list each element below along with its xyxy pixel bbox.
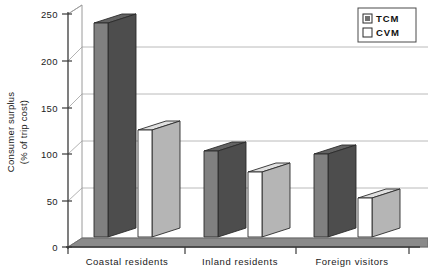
y-axis-title-line1: Consumer surplus [5, 92, 16, 172]
y-axis-title: Consumer surplus (% of trip cost) [5, 92, 29, 172]
connector-250 [68, 5, 82, 14]
legend-swatch-cvm [363, 28, 372, 37]
x-tick-label-coastal-residents: Coastal residents [86, 256, 169, 267]
y-tick-label-0: 0 [52, 242, 58, 253]
legend-label-cvm: CVM [376, 27, 400, 38]
chart-legend: TCM CVM [358, 8, 416, 42]
x-tick-label-inland-residents: Inland residents [202, 256, 278, 267]
wall-edges [68, 5, 82, 238]
bar-tcm-inland-residents [204, 142, 246, 237]
y-axis-title-line2: (% of trip cost) [18, 100, 29, 164]
bar-cvm-inland-residents [248, 163, 290, 237]
bar-cvm-coastal-residents [138, 121, 180, 237]
y-axis: 250 200 150 100 50 0 [41, 9, 72, 253]
y-tick-label-50: 50 [47, 196, 58, 207]
bar-tcm-coastal-residents [94, 14, 136, 237]
x-axis: Coastal residents Inland residents Forei… [66, 247, 420, 267]
bar-chart-figure: 250 200 150 100 50 0 Consumer surplus (%… [0, 0, 428, 270]
y-tick-label-150: 150 [41, 103, 58, 114]
y-tick-label-250: 250 [41, 9, 58, 20]
legend-entry-cvm[interactable]: CVM [363, 27, 400, 38]
connector-150 [68, 94, 82, 108]
bar-tcm-foreign-visitors [314, 145, 356, 237]
connector-50 [68, 188, 82, 201]
legend-swatch-tcm [365, 16, 370, 21]
tick-depth-connectors [68, 5, 82, 201]
connector-200 [68, 47, 82, 61]
legend-label-tcm: TCM [376, 13, 399, 24]
chart-svg: 250 200 150 100 50 0 Consumer surplus (%… [0, 0, 428, 270]
y-tick-label-100: 100 [41, 149, 58, 160]
y-tick-label-200: 200 [41, 56, 58, 67]
legend-entry-tcm[interactable]: TCM [363, 13, 399, 24]
plot-floor [68, 238, 428, 247]
bar-cvm-foreign-visitors [358, 189, 400, 237]
x-tick-label-foreign-visitors: Foreign visitors [315, 256, 388, 267]
connector-100 [68, 141, 82, 154]
